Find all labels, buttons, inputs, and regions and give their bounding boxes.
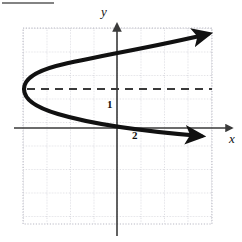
x-axis-label: x [229, 132, 235, 145]
graph-figure: y x 1 2 [0, 0, 242, 242]
y-axis-label: y [101, 5, 107, 18]
coordinate-plane [0, 0, 242, 242]
tick-label-two: 2 [132, 130, 138, 141]
tick-label-one: 1 [107, 99, 113, 110]
